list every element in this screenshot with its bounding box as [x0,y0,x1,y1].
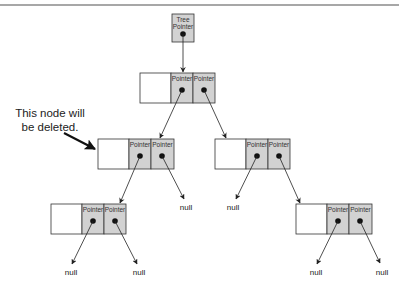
right-pointer-label: Pointer [194,75,215,82]
node-root: Pointer Pointer [140,73,215,103]
node-value-cell [98,139,129,169]
left-pointer-label: Pointer [247,141,268,148]
null-label: null [376,268,389,277]
left-pointer-label: Pointer [172,75,193,82]
node-value-cell [215,139,246,169]
right-pointer-label: Pointer [105,206,126,213]
right-pointer-label: Pointer [269,141,290,148]
tree-pointer-label-line1: Tree [176,16,190,23]
left-pointer-label: Pointer [130,141,151,148]
tree-diagram: Tree Pointer Pointer Pointer Pointer Poi… [0,0,399,289]
tree-pointer-label-line2: Pointer [173,23,194,30]
annotation-arrow-icon [64,133,95,149]
null-label: null [65,268,78,277]
annotation-line1: This node will [15,107,85,119]
right-pointer-label: Pointer [350,206,371,213]
null-label: null [227,203,240,212]
node-value-cell [51,204,82,234]
right-pointer-label: Pointer [152,141,173,148]
node-value-cell [296,204,327,234]
left-pointer-label: Pointer [83,206,104,213]
left-pointer-label: Pointer [328,206,349,213]
null-label: null [180,203,193,212]
null-label: null [310,268,323,277]
annotation-line2: be deleted. [22,121,79,133]
null-label: null [133,268,146,277]
node-value-cell [140,73,171,103]
